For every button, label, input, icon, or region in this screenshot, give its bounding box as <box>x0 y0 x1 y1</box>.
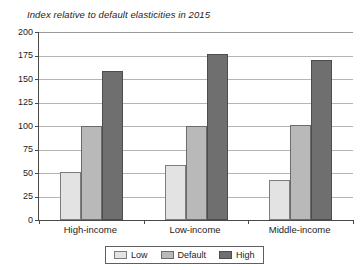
bar-middle-income-low <box>269 180 290 220</box>
bar-low-income-low <box>165 165 186 220</box>
y-axis-tick <box>35 79 39 80</box>
y-axis-tick <box>35 32 39 33</box>
bar-high-income-low <box>60 172 81 220</box>
y-axis-tick-label: 200 <box>3 28 33 37</box>
x-axis-label-high-income: High-income <box>38 224 143 235</box>
plot-area <box>38 32 353 221</box>
gridline <box>39 56 353 57</box>
gridline <box>39 79 353 80</box>
y-axis-tick <box>35 56 39 57</box>
legend-item-default[interactable]: Default <box>161 251 207 260</box>
y-axis-tick-label: 175 <box>3 51 33 60</box>
y-axis-tick-label: 0 <box>3 216 33 225</box>
bar-high-income-high <box>102 71 123 220</box>
y-axis-tick <box>35 103 39 104</box>
legend-swatch-default <box>161 251 174 259</box>
gridline <box>39 32 353 33</box>
x-axis-label-middle-income: Middle-income <box>247 224 352 235</box>
y-axis-tick-label: 25 <box>3 192 33 201</box>
y-axis-tick <box>35 126 39 127</box>
legend-swatch-low <box>114 251 127 259</box>
y-axis-tick-label: 75 <box>3 145 33 154</box>
legend-label: High <box>236 251 255 260</box>
legend-swatch-high <box>219 251 232 259</box>
y-axis-tick-label: 50 <box>3 169 33 178</box>
bar-chart-figure: Index relative to default elasticities i… <box>0 0 361 270</box>
x-axis-category-labels: High-incomeLow-incomeMiddle-income <box>38 222 352 238</box>
y-axis-tick-label: 100 <box>3 122 33 131</box>
legend-label: Default <box>178 251 207 260</box>
y-axis-tick-label: 150 <box>3 75 33 84</box>
x-axis-label-low-income: Low-income <box>143 224 248 235</box>
x-axis-edge-tick <box>353 220 354 224</box>
legend-item-high[interactable]: High <box>219 251 255 260</box>
legend-item-low[interactable]: Low <box>114 251 148 260</box>
bar-high-income-default <box>81 126 102 220</box>
y-axis-tick <box>35 150 39 151</box>
gridline <box>39 103 353 104</box>
y-axis-tick <box>35 173 39 174</box>
y-axis-tick <box>35 197 39 198</box>
y-axis-tick-label: 125 <box>3 98 33 107</box>
chart-title: Index relative to default elasticities i… <box>27 9 210 20</box>
bar-middle-income-default <box>290 125 311 220</box>
bar-middle-income-high <box>311 60 332 220</box>
bar-low-income-high <box>207 54 228 220</box>
y-axis-tick-labels: 2001751501251007550250 <box>0 32 33 220</box>
chart-legend: LowDefaultHigh <box>105 246 264 264</box>
bar-low-income-default <box>186 126 207 220</box>
legend-label: Low <box>131 251 148 260</box>
